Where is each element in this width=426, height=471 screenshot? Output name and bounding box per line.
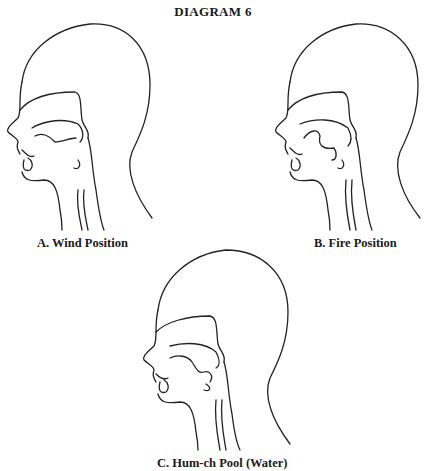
head-profile-water (130, 250, 300, 450)
lips (156, 374, 168, 393)
palate (300, 120, 351, 146)
tongue (35, 134, 76, 142)
diagram-title: DIAGRAM 6 (0, 4, 426, 20)
trachea (345, 180, 356, 230)
trachea (77, 190, 88, 230)
pharynx (88, 138, 104, 230)
forehead-nose-outline (8, 82, 22, 154)
nasal-cavity (288, 92, 356, 138)
skull-outline (158, 250, 290, 444)
epiglottis (338, 160, 344, 169)
lips (290, 148, 302, 171)
epiglottis (204, 384, 210, 391)
nasal-cavity (156, 316, 224, 362)
pharynx (356, 138, 372, 230)
epiglottis (74, 160, 80, 169)
forehead-nose-outline (276, 82, 290, 154)
palate (32, 121, 83, 142)
jaw-throat (290, 172, 330, 230)
head-profile-wind (0, 20, 170, 230)
caption-fire-position: B. Fire Position (314, 236, 397, 251)
caption-water-position: C. Hum-ch Pool (Water) (157, 456, 288, 471)
head-profile-fire (260, 20, 426, 230)
pharynx (224, 362, 240, 450)
jaw-throat (22, 172, 62, 230)
lips (22, 150, 34, 171)
tongue (170, 356, 212, 382)
nasal-cavity (20, 92, 88, 138)
tongue (304, 131, 336, 160)
forehead-nose-outline (144, 310, 158, 382)
caption-wind-position: A. Wind Position (37, 236, 128, 251)
jaw-throat (158, 394, 198, 450)
skull-outline (22, 24, 152, 218)
trachea (215, 400, 226, 450)
